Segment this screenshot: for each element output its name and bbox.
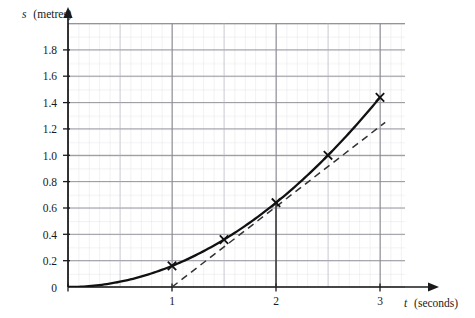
y-tick-label-1.6: 1.6: [43, 70, 58, 82]
grid-layer: [68, 23, 405, 287]
y-axis-title-variable: s: [22, 8, 27, 20]
y-tick-label-0.8: 0.8: [43, 176, 58, 188]
y-tick-labels: 0 0.2 0.4 0.6 0.8 1.0 1.2 1.4 1.6 1.8: [43, 44, 58, 294]
x-axis-title-unit: (seconds): [414, 297, 458, 310]
x-axis-title: t (seconds): [404, 297, 458, 310]
x-tick-label-1: 1: [169, 295, 175, 307]
x-axis-title-variable: t: [404, 297, 408, 309]
x-tick-label-2: 2: [273, 295, 279, 307]
x-axis-arrowhead: [428, 282, 439, 291]
y-tick-label-1.4: 1.4: [43, 97, 58, 109]
y-tick-label-1.0: 1.0: [43, 150, 58, 162]
x-tick-label-3: 3: [377, 295, 383, 307]
y-tick-label-1.8: 1.8: [43, 44, 58, 56]
y-tick-label-0.6: 0.6: [43, 202, 58, 214]
distance-time-graph: 0 0.2 0.4 0.6 0.8 1.0 1.2 1.4 1.6 1.8 1 …: [0, 0, 475, 318]
y-axis-title-unit: (metres): [33, 8, 71, 21]
x-tick-labels: 1 2 3: [169, 295, 383, 307]
y-tick-label-0: 0: [51, 282, 57, 294]
chart-canvas: 0 0.2 0.4 0.6 0.8 1.0 1.2 1.4 1.6 1.8 1 …: [0, 0, 475, 318]
y-tick-label-1.2: 1.2: [43, 123, 58, 135]
y-tick-label-0.2: 0.2: [43, 255, 58, 267]
y-axis-title: s (metres): [22, 8, 72, 21]
y-tick-label-0.4: 0.4: [43, 229, 58, 241]
